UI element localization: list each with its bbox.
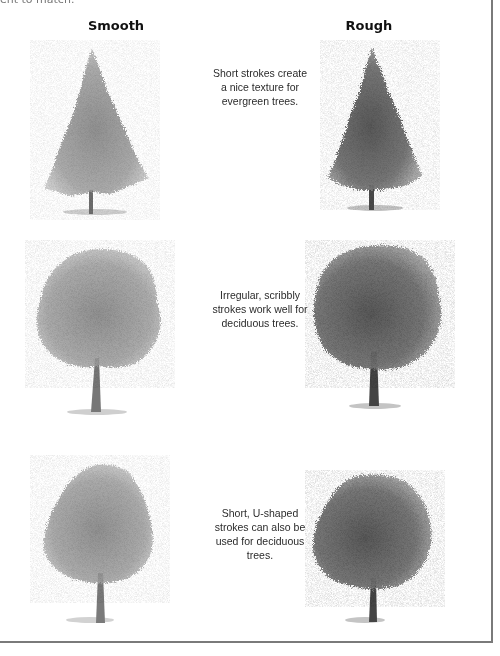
frame-border-bottom bbox=[0, 641, 493, 643]
deciduous-u-tree-smooth bbox=[30, 455, 170, 635]
column-header-smooth: Smooth bbox=[66, 18, 166, 33]
evergreen-tree-smooth bbox=[30, 40, 160, 220]
frame-border-right bbox=[491, 0, 493, 643]
caption-u-shaped: Short, U-shaped strokes can also be used… bbox=[200, 506, 320, 562]
caption-scribbly: Irregular, scribbly strokes work well fo… bbox=[200, 288, 320, 330]
evergreen-tree-rough bbox=[320, 40, 440, 220]
deciduous-u-tree-rough bbox=[305, 470, 445, 640]
clipped-previous-text: ent to match. bbox=[0, 0, 74, 6]
deciduous-tree-smooth bbox=[25, 240, 175, 420]
column-header-rough: Rough bbox=[319, 18, 419, 33]
deciduous-tree-rough bbox=[305, 240, 455, 420]
caption-evergreen: Short strokes create a nice texture for … bbox=[200, 66, 320, 108]
